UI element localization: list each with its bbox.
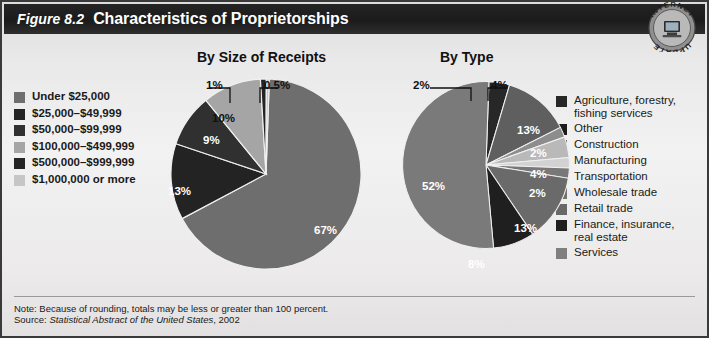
legend-item[interactable]: Agriculture, forestry, fishing services [556,94,676,119]
legend-item[interactable]: Under $25,000 [14,90,136,103]
legend-label: Agriculture, forestry, fishing services [574,94,676,119]
legend-swatch [14,175,25,186]
pie-left-leader-lines [160,75,340,115]
pie-right-value-13-lower: 13% [514,222,537,234]
footer-source: Source: Statistical Abstract of the Unit… [14,314,240,326]
legend-swatch [14,125,25,136]
legend-item[interactable]: $500,000–$999,999 [14,156,136,169]
pie-right-leader-lines [408,75,548,115]
pie-right-value-4-mid: 4% [530,168,547,180]
legend-swatch [14,142,25,153]
pie-right-value-2-upper: 2% [530,147,547,159]
legend-item[interactable]: $1,000,000 or more [14,173,136,186]
legend-item[interactable]: Transportation [556,170,676,183]
legend-label: $500,000–$999,999 [32,156,134,169]
legend-label: Wholesale trade [574,186,657,199]
legend-item[interactable]: Manufacturing [556,154,676,167]
legend-item[interactable]: Finance, insurance, real estate [556,218,676,243]
legend-label: Under $25,000 [32,90,110,103]
pie-right-value-2-lower: 2% [529,187,546,199]
source-prefix: Source: [14,314,49,325]
legend-label: Manufacturing [574,154,647,167]
pie-right-value-13-upper: 13% [517,124,540,136]
figure-container: Figure 8.2 Characteristics of Proprietor… [0,0,709,338]
internet-update-badge[interactable]: INTERNET UPDATE [641,2,703,52]
legend-swatch [14,158,25,169]
pie-left-value-13: 13% [168,185,191,197]
legend-item[interactable]: Retail trade [556,202,676,215]
legend-label: $100,000–$499,999 [32,140,134,153]
figure-title: Characteristics of Proprietorships [93,10,348,28]
figure-number: Figure 8.2 [17,11,84,27]
legend-label: $1,000,000 or more [32,173,136,186]
chart-title-by-size-of-receipts: By Size of Receipts [197,49,326,65]
legend-swatch [14,92,25,103]
legend-item[interactable]: $50,000–$99,999 [14,123,136,136]
source-suffix: , 2002 [213,314,239,325]
figure-header: Figure 8.2 Characteristics of Proprietor… [4,4,705,34]
pie-left-value-67: 67% [314,224,337,236]
legend-label: Construction [574,138,639,151]
footer-note: Note: Because of rounding, totals may be… [14,303,328,315]
legend-item[interactable]: Other [556,122,676,135]
legend-item[interactable]: $100,000–$499,999 [14,140,136,153]
legend-label: $50,000–$99,999 [32,123,122,136]
legend-item[interactable]: Construction [556,138,676,151]
chart-title-by-type: By Type [440,49,493,65]
pie-right-value-8: 8% [468,258,485,270]
legend-label: $25,000–$49,999 [32,107,122,120]
legend-by-type: Agriculture, forestry, fishing services … [556,94,676,262]
legend-label: Finance, insurance, real estate [574,218,674,243]
legend-swatch [14,109,25,120]
pie-right-value-52: 52% [422,180,445,192]
legend-item[interactable]: Wholesale trade [556,186,676,199]
legend-label: Retail trade [574,202,633,215]
legend-by-size-of-receipts: Under $25,000 $25,000–$49,999 $50,000–$9… [14,90,136,189]
legend-item[interactable]: Services [556,246,676,259]
legend-item[interactable]: $25,000–$49,999 [14,107,136,120]
legend-label: Other [574,122,603,135]
legend-label: Services [574,246,618,259]
pie-left-value-9: 9% [203,134,220,146]
source-title: Statistical Abstract of the United State… [49,314,213,325]
legend-label: Transportation [574,170,648,183]
footer-divider [14,296,695,297]
